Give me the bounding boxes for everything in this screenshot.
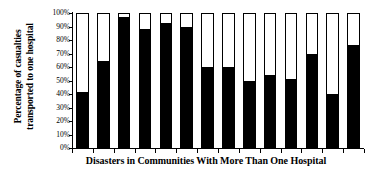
bar-fill xyxy=(202,67,213,147)
x-tick-mark xyxy=(281,149,282,153)
chart-container: Percentage of casualties transported to … xyxy=(0,0,369,174)
y-tick-label: 20% xyxy=(56,117,70,125)
bar-fill xyxy=(348,45,359,147)
bar-fill xyxy=(181,27,192,147)
y-tick-label: 40% xyxy=(56,90,70,98)
x-tick-mark xyxy=(176,149,177,153)
bar-fill xyxy=(327,94,338,147)
bar xyxy=(285,13,298,148)
bar-series xyxy=(72,13,364,148)
x-tick-mark xyxy=(72,149,73,153)
y-axis-title-line-1: Percentage of casualties xyxy=(13,23,25,130)
x-tick-mark xyxy=(322,149,323,153)
bar xyxy=(347,13,360,148)
bar xyxy=(139,13,152,148)
bar-fill xyxy=(307,54,318,147)
y-tick-label: 90% xyxy=(56,23,70,31)
x-tick-mark xyxy=(364,149,365,153)
x-tick-mark xyxy=(114,149,115,153)
bar-fill xyxy=(286,79,297,147)
y-tick-label: 70% xyxy=(56,50,70,58)
x-tick-mark xyxy=(343,149,344,153)
bar xyxy=(160,13,173,148)
bar xyxy=(118,13,131,148)
x-tick-mark xyxy=(93,149,94,153)
bar-fill xyxy=(265,75,276,147)
bar-fill xyxy=(161,23,172,147)
y-axis-title: Percentage of casualties transported to … xyxy=(0,0,48,152)
x-tick-mark xyxy=(197,149,198,153)
bar-fill xyxy=(98,61,109,147)
bar xyxy=(201,13,214,148)
x-tick-mark xyxy=(155,149,156,153)
bar-fill xyxy=(223,67,234,147)
bar xyxy=(306,13,319,148)
y-tick-label: 30% xyxy=(56,104,70,112)
y-tick-label: 10% xyxy=(56,131,70,139)
y-tick-label: 100% xyxy=(53,9,71,17)
x-tick-mark xyxy=(239,149,240,153)
plot-area xyxy=(72,13,364,148)
y-axis-tick-labels: 100%90%80%70%60%50%40%30%20%10%0% xyxy=(44,13,71,148)
y-tick-label: 80% xyxy=(56,36,70,44)
bar xyxy=(264,13,277,148)
bar xyxy=(97,13,110,148)
x-axis-title: Disasters in Communities With More Than … xyxy=(48,155,364,166)
x-tick-mark xyxy=(218,149,219,153)
bar xyxy=(180,13,193,148)
x-tick-mark xyxy=(260,149,261,153)
bar-fill xyxy=(77,92,88,147)
bar xyxy=(243,13,256,148)
bar xyxy=(326,13,339,148)
x-tick-mark xyxy=(135,149,136,153)
bar xyxy=(222,13,235,148)
bar xyxy=(76,13,89,148)
y-tick-label: 50% xyxy=(56,77,70,85)
bar-fill xyxy=(119,17,130,147)
bar-fill xyxy=(140,29,151,147)
x-tick-mark xyxy=(301,149,302,153)
y-tick-label: 60% xyxy=(56,63,70,71)
y-axis-title-line-2: transported to one hospital xyxy=(24,23,36,130)
bar-fill xyxy=(244,81,255,148)
